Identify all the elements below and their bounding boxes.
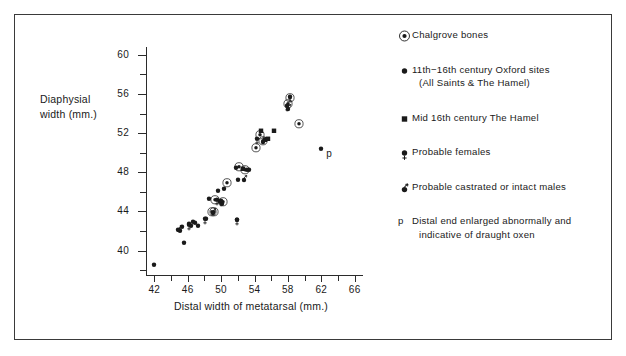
y-tick-label: 48 [89,166,129,177]
y-tick-major [138,251,146,252]
x-tick-major [154,276,155,282]
x-tick-label: 66 [340,284,370,295]
x-tick-minor [238,276,239,281]
data-point [173,224,184,236]
point-annotation-p: p [326,147,332,158]
x-tick-label: 50 [206,284,236,295]
legend-label: Chalgrove bones [412,28,603,42]
filled-dot-icon [398,65,410,77]
y-tick-label: 52 [89,127,129,138]
x-tick-label: 58 [273,284,303,295]
legend-label: Mid 16th century The Hamel [412,111,603,125]
x-tick-minor [204,276,205,281]
legend-label: 11th−16th century Oxford sites [412,63,603,77]
dot-female-icon [398,147,410,159]
legend-label: Probable castrated or intact males [412,180,603,194]
data-point [268,125,279,137]
scatter-plot-area: 40444852566042465054586266 [131,44,363,276]
y-tick-label: 60 [89,49,129,60]
data-point [293,119,304,131]
x-tick-major [255,276,256,282]
legend-label: indicative of draught oxen [412,228,603,242]
legend-item[interactable]: Mid 16th century The Hamel [398,111,603,125]
data-point [258,136,269,148]
x-tick-minor [305,276,306,281]
y-tick-minor [140,270,146,271]
x-tick-major [188,276,189,282]
y-tick-major [138,55,146,56]
legend-item[interactable]: Chalgrove bones [398,28,603,42]
y-tick-minor [140,74,146,75]
y-tick-minor [140,114,146,115]
x-tick-label: 42 [139,284,169,295]
legend-item[interactable]: Probable females [398,145,603,159]
data-point [179,238,190,250]
legend-item[interactable]: pDistal end enlarged abnormally andindic… [398,214,603,241]
p-char: p [398,214,403,228]
data-point [184,219,195,231]
data-point [283,103,294,115]
x-tick-label: 62 [306,284,336,295]
y-axis-title-line-2: width (mm.) [40,107,130,122]
x-tick-major [355,276,356,282]
dot-in-circle-icon [398,30,410,42]
y-axis-line [146,47,147,276]
legend-label: Probable females [412,145,603,159]
legend-item[interactable]: Probable castrated or intact males [398,180,603,194]
chart-legend: Chalgrove bones11th−16th century Oxford … [398,28,603,262]
data-point [316,144,327,156]
y-tick-major [138,94,146,95]
data-point [232,214,243,226]
legend-label: (All Saints & The Hamel) [412,76,603,90]
x-tick-major [221,276,222,282]
y-tick-major [138,133,146,134]
x-tick-minor [171,276,172,281]
y-tick-major [138,211,146,212]
legend-label: Distal end enlarged abnormally and [412,214,603,228]
x-tick-major [321,276,322,282]
x-axis-title: Distal width of metatarsal (mm.) [131,300,371,312]
figure-root: Diaphysial width (mm.) Distal width of m… [0,0,626,356]
dot-male-icon [398,182,410,194]
y-tick-label: 40 [89,245,129,256]
y-tick-minor [140,231,146,232]
data-point [207,207,218,219]
y-tick-minor [140,153,146,154]
y-tick-label: 44 [89,205,129,216]
x-tick-minor [271,276,272,281]
x-tick-label: 46 [173,284,203,295]
x-tick-major [288,276,289,282]
x-tick-label: 54 [240,284,270,295]
x-tick-minor [338,276,339,281]
legend-item[interactable]: 11th−16th century Oxford sites(All Saint… [398,63,603,90]
y-tick-major [138,172,146,173]
data-point [149,259,160,271]
data-point [238,173,249,185]
y-tick-label: 56 [89,88,129,99]
y-tick-minor [140,192,146,193]
filled-square-icon [398,113,410,125]
